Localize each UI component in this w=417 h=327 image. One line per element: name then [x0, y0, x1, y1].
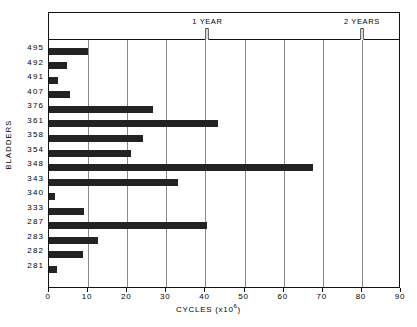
y-axis-tick-label: 287 [4, 217, 44, 226]
x-axis-tick-label: 60 [277, 292, 288, 301]
y-axis-tick-label: 491 [4, 72, 44, 81]
bar [49, 91, 70, 98]
x-axis-tick-label: 20 [121, 292, 132, 301]
bar [49, 48, 88, 55]
x-axis-tick-label: 50 [238, 292, 249, 301]
bar [49, 266, 57, 273]
bar-row [49, 175, 401, 190]
bar-row [49, 146, 401, 161]
bar [49, 222, 207, 229]
x-axis-tick-label: 30 [160, 292, 171, 301]
y-axis-tick-label: 361 [4, 116, 44, 125]
y-axis-tick-label: 333 [4, 203, 44, 212]
bar [49, 164, 313, 171]
plot-area [48, 40, 400, 288]
bar-row [49, 190, 401, 205]
x-axis-tick-label: 0 [45, 292, 50, 301]
y-axis-tick-label: 407 [4, 87, 44, 96]
y-axis-tick-labels: 4954924914073763613583543483433403332872… [0, 40, 44, 288]
bar [49, 62, 67, 69]
y-axis-tick-label: 283 [4, 232, 44, 241]
y-axis-tick-label: 492 [4, 58, 44, 67]
y-axis-tick-label: 358 [4, 130, 44, 139]
y-axis-tick-label: 376 [4, 101, 44, 110]
x-axis-tick-label: 90 [395, 292, 406, 301]
bar-series [49, 40, 399, 287]
bar-row [49, 74, 401, 89]
bar-row [49, 204, 401, 219]
year-marker-label: 1 YEAR [192, 17, 222, 26]
bar-chart-figure: 1 YEAR2 YEARS BLADDERS 49549249140737636… [0, 0, 417, 327]
bar-row [49, 233, 401, 248]
bar-row [49, 88, 401, 103]
bar [49, 135, 143, 142]
bar [49, 208, 84, 215]
y-axis-tick-label: 348 [4, 159, 44, 168]
year-marker-band: 1 YEAR2 YEARS [48, 12, 400, 40]
y-axis-tick-label: 343 [4, 174, 44, 183]
year-marker-label: 2 YEARS [344, 17, 380, 26]
bar-row [49, 219, 401, 234]
y-axis-tick-label: 340 [4, 188, 44, 197]
bar-row [49, 132, 401, 147]
bar [49, 251, 83, 258]
bar-row [49, 45, 401, 60]
bar-row [49, 248, 401, 263]
x-axis-title: CYCLES (x106) [0, 303, 417, 314]
bar [49, 237, 98, 244]
x-axis-tick-label: 80 [356, 292, 367, 301]
x-axis-tick-label: 10 [82, 292, 93, 301]
y-axis-tick-label: 354 [4, 145, 44, 154]
x-axis-ticks: 0102030405060708090 [48, 288, 400, 304]
x-axis-tick-label: 70 [317, 292, 328, 301]
bar-row [49, 59, 401, 74]
y-axis-tick-label: 282 [4, 246, 44, 255]
x-axis-tick-label: 40 [199, 292, 210, 301]
bar-row [49, 117, 401, 132]
y-axis-tick-label: 281 [4, 261, 44, 270]
bar [49, 120, 218, 127]
bar [49, 106, 153, 113]
bar [49, 150, 131, 157]
bar [49, 193, 55, 200]
bar-row [49, 103, 401, 118]
bar-row [49, 262, 401, 277]
bar-row [49, 161, 401, 176]
y-axis-tick-label: 495 [4, 43, 44, 52]
bar [49, 179, 178, 186]
bar [49, 77, 58, 84]
